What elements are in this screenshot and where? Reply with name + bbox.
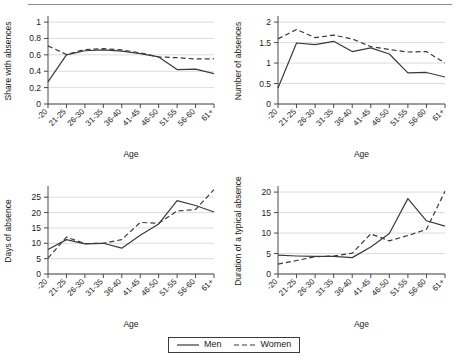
y-tick-label: 0 [266,269,271,279]
y-tick-label: 0.8 [29,33,41,43]
series-line-men [48,201,214,250]
y-tick-label: 5 [266,249,271,259]
y-tick-label: 1 [36,17,41,27]
x-tick-label: 56-60 [407,277,428,298]
x-tick-label: 36-40 [333,107,354,128]
figure-container: 00.20.40.60.81-2021-2526-3031-3536-4041-… [0,0,461,364]
x-tick-label: 36-40 [333,277,354,298]
figure-legend: Men Women [168,337,300,353]
x-tick-label: 26-30 [65,107,86,128]
y-tick-label: 0.2 [29,83,41,93]
x-tick-label: 51-55 [158,277,179,298]
y-axis-title: Duration of a typical absence [233,176,243,286]
chart-panel-duration-of-typical-absence: 05101520-2021-2526-3031-3536-4041-4546-5… [230,178,461,330]
x-tick-label: 21-25 [277,277,298,298]
x-tick-label: 61+ [430,107,446,123]
series-line-men [278,41,445,88]
chart-svg-share-with-absences: 00.20.40.60.81-2021-2526-3031-3536-4041-… [0,8,230,160]
y-axis-title: Days of absence [3,199,13,263]
chart-panel-share-with-absences: 00.20.40.60.81-2021-2526-3031-3536-4041-… [0,8,230,160]
x-tick-label: 26-30 [296,277,317,298]
y-tick-label: 15 [32,223,42,233]
y-tick-label: 0.5 [259,79,271,89]
legend-line-solid-icon [177,341,199,349]
y-tick-label: 25 [32,192,42,202]
chart-panel-number-of-absences: 00.511.52-2021-2526-3031-3536-4041-4546-… [230,8,461,160]
x-tick-label: 61+ [199,277,215,293]
y-tick-label: 15 [262,208,272,218]
x-tick-label: 26-30 [65,277,86,298]
x-tick-label: 56-60 [407,107,428,128]
chart-svg-duration-of-typical-absence: 05101520-2021-2526-3031-3536-4041-4546-5… [230,178,461,330]
x-tick-label: 46-50 [370,277,391,298]
x-axis-title: Age [354,319,369,329]
series-line-women [278,29,445,63]
x-tick-label: 31-35 [84,277,105,298]
x-tick-label: 61+ [430,277,446,293]
y-tick-label: 2 [266,17,271,27]
legend-label-men: Men [204,340,222,349]
x-tick-label: 41-45 [121,277,142,298]
y-tick-label: 10 [262,228,272,238]
x-axis-title: Age [354,149,369,159]
x-axis-title: Age [123,149,138,159]
chart-svg-number-of-absences: 00.511.52-2021-2526-3031-3536-4041-4546-… [230,8,461,160]
x-tick-label: 26-30 [296,107,317,128]
x-tick-label: 46-50 [139,277,160,298]
x-tick-label: 41-45 [351,277,372,298]
x-tick-label: 36-40 [102,277,123,298]
chart-panel-days-of-absence: 0510152025-2021-2526-3031-3536-4041-4546… [0,178,230,330]
chart-svg-days-of-absence: 0510152025-2021-2526-3031-3536-4041-4546… [0,178,230,330]
series-line-men [278,199,445,258]
y-axis-title: Number of absences [233,22,243,100]
top-divider-rule [28,4,452,5]
y-tick-label: 1.5 [259,38,271,48]
x-tick-label: 56-60 [176,277,197,298]
x-tick-label: 21-25 [47,107,68,128]
x-tick-label: 31-35 [314,107,335,128]
y-tick-label: 0.4 [29,66,41,76]
y-tick-label: 0.6 [29,50,41,60]
series-line-women [48,190,214,258]
x-tick-label: 51-55 [158,107,179,128]
legend-item-men: Men [177,340,222,349]
legend-item-women: Women [234,340,292,349]
x-tick-label: 61+ [199,107,215,123]
x-tick-label: 46-50 [370,107,391,128]
x-axis-title: Age [123,319,138,329]
y-tick-label: 0 [266,99,271,109]
y-tick-label: 5 [36,254,41,264]
y-axis-title: Share with absences [3,22,13,101]
legend-label-women: Women [261,340,292,349]
x-tick-label: 56-60 [176,107,197,128]
x-tick-label: 36-40 [102,107,123,128]
x-tick-label: 41-45 [351,107,372,128]
x-tick-label: 31-35 [314,277,335,298]
y-tick-label: 20 [262,187,272,197]
x-tick-label: 31-35 [84,107,105,128]
x-tick-label: 51-55 [388,107,409,128]
y-tick-label: 0 [36,269,41,279]
legend-line-dashed-icon [234,341,256,349]
y-tick-label: 1 [266,58,271,68]
x-tick-label: 21-25 [47,277,68,298]
y-tick-label: 0 [36,99,41,109]
x-tick-label: 21-25 [277,107,298,128]
x-tick-label: 51-55 [388,277,409,298]
x-tick-label: 46-50 [139,107,160,128]
y-tick-label: 10 [32,238,42,248]
y-tick-label: 20 [32,208,42,218]
x-tick-label: 41-45 [121,107,142,128]
